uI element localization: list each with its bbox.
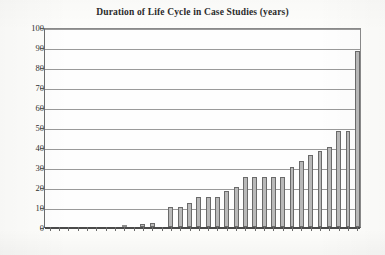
x-tick-mark: [311, 227, 312, 231]
bar: [346, 131, 351, 227]
bar: [187, 203, 192, 227]
y-tick-label-20: 20: [10, 184, 44, 192]
bar: [150, 223, 155, 227]
bar: [243, 177, 248, 227]
chart-title: Duration of Life Cycle in Case Studies (…: [0, 7, 385, 17]
chart-container: Duration of Life Cycle in Case Studies (…: [0, 0, 385, 255]
x-tick-mark: [227, 227, 228, 231]
x-tick-mark: [106, 227, 107, 231]
x-tick-mark: [171, 227, 172, 231]
bar: [308, 155, 313, 227]
x-tick-mark: [217, 227, 218, 231]
y-tick-label-80: 80: [10, 64, 44, 72]
bar: [299, 161, 304, 227]
x-tick-mark: [78, 227, 79, 231]
x-tick-mark: [50, 227, 51, 231]
plot-area: [44, 28, 361, 228]
y-tick-label-0: 0: [10, 224, 44, 232]
y-tick-label-30: 30: [10, 164, 44, 172]
bar: [224, 191, 229, 227]
y-tick-label-60: 60: [10, 104, 44, 112]
bar: [355, 51, 360, 227]
gridline-0: [45, 228, 360, 229]
x-tick-mark: [273, 227, 274, 231]
bar: [140, 224, 145, 227]
y-tick-label-50: 50: [10, 124, 44, 132]
bar-series: [45, 29, 360, 227]
bar: [122, 225, 127, 227]
x-tick-mark: [68, 227, 69, 231]
x-tick-mark: [329, 227, 330, 231]
y-tick-mark-0: [40, 228, 44, 229]
x-tick-mark: [180, 227, 181, 231]
x-tick-mark: [283, 227, 284, 231]
bar: [178, 207, 183, 227]
y-tick-label-90: 90: [10, 44, 44, 52]
x-tick-mark: [199, 227, 200, 231]
x-tick-mark: [339, 227, 340, 231]
x-tick-mark: [245, 227, 246, 231]
x-tick-mark: [162, 227, 163, 231]
x-tick-mark: [190, 227, 191, 231]
bar: [271, 177, 276, 227]
x-tick-mark: [292, 227, 293, 231]
y-tick-label-10: 10: [10, 204, 44, 212]
x-tick-mark: [59, 227, 60, 231]
bar: [234, 187, 239, 227]
bar: [290, 167, 295, 227]
y-axis: 0102030405060708090100: [0, 0, 44, 255]
bar: [215, 197, 220, 227]
bar: [318, 151, 323, 227]
x-tick-mark: [96, 227, 97, 231]
y-tick-label-100: 100: [10, 24, 44, 32]
y-tick-label-70: 70: [10, 84, 44, 92]
x-tick-mark: [115, 227, 116, 231]
x-tick-mark: [152, 227, 153, 231]
bar: [206, 197, 211, 227]
bar: [168, 207, 173, 227]
bar: [252, 177, 257, 227]
x-tick-mark: [208, 227, 209, 231]
x-tick-mark: [134, 227, 135, 231]
bar: [280, 177, 285, 227]
x-tick-mark: [87, 227, 88, 231]
x-tick-mark: [320, 227, 321, 231]
x-tick-mark: [264, 227, 265, 231]
x-tick-mark: [301, 227, 302, 231]
x-tick-mark: [348, 227, 349, 231]
x-tick-mark: [357, 227, 358, 231]
x-tick-mark: [143, 227, 144, 231]
x-tick-mark: [124, 227, 125, 231]
bar: [327, 147, 332, 227]
bar: [262, 177, 267, 227]
x-tick-mark: [255, 227, 256, 231]
bar: [336, 131, 341, 227]
x-tick-mark: [236, 227, 237, 231]
bar: [196, 197, 201, 227]
y-tick-label-40: 40: [10, 144, 44, 152]
